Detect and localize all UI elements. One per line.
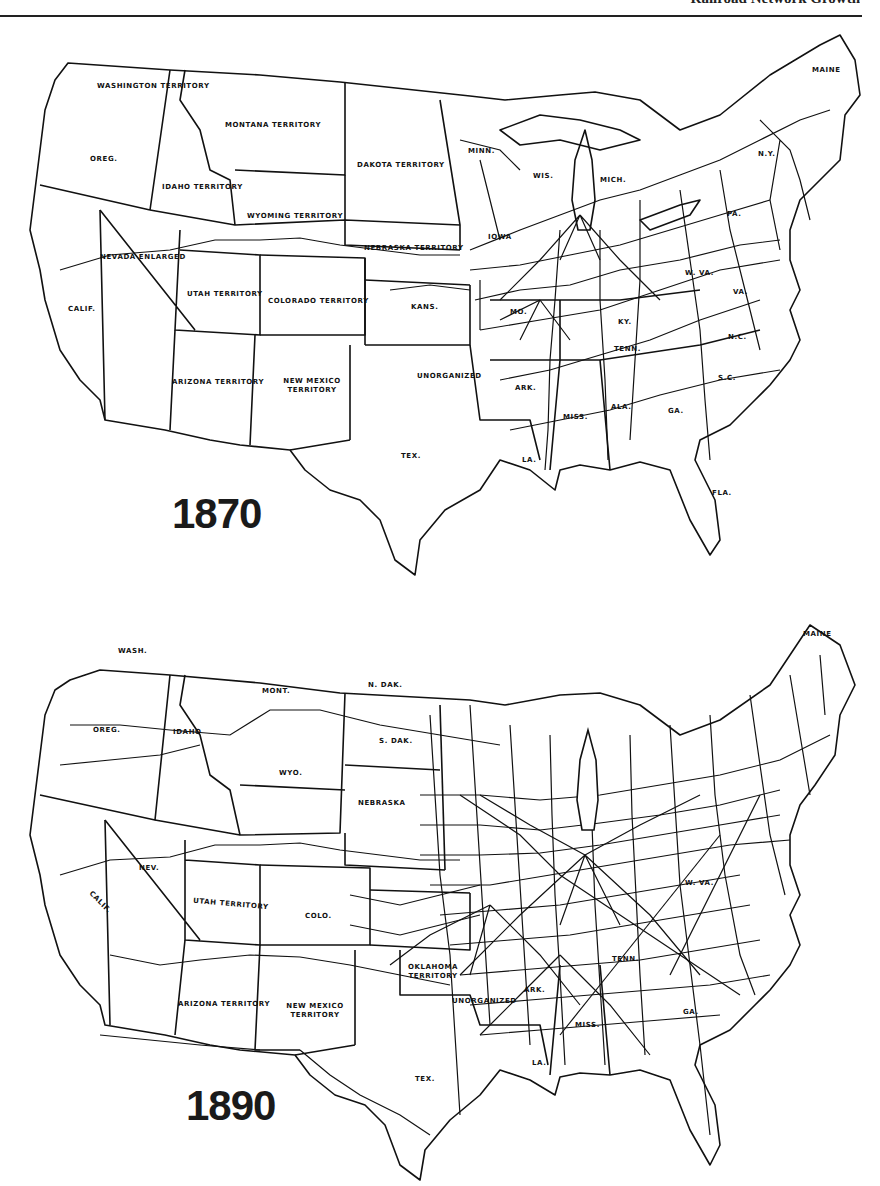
- label-florida: Fla.: [712, 489, 732, 498]
- label-nevada: Nev.: [139, 864, 159, 873]
- railroads-1870: [60, 110, 830, 470]
- label-iowa: Iowa: [488, 233, 512, 242]
- label-georgia: Ga.: [683, 1008, 699, 1017]
- label-west-virginia: W. Va.: [685, 879, 714, 888]
- label-new-mexico: New Mexico Territory: [280, 1002, 350, 1020]
- label-west-virginia: W. Va.: [685, 269, 714, 278]
- map-1870: Washington Territory Montana Territory O…: [0, 0, 880, 590]
- label-new-mexico: New Mexico Territory: [277, 377, 347, 395]
- label-california: Calif.: [68, 305, 96, 314]
- label-north-carolina: N.C.: [728, 333, 747, 342]
- label-mississippi: Miss.: [563, 413, 588, 422]
- label-south-dakota: S. Dak.: [379, 737, 413, 746]
- lake-superior: [500, 115, 640, 150]
- label-tennessee: Tenn.: [614, 345, 641, 354]
- label-arkansas: Ark.: [515, 384, 536, 393]
- year-label-1870: 1870: [172, 490, 261, 538]
- label-texas: Tex.: [415, 1075, 435, 1084]
- label-nebraska: Nebraska: [358, 799, 405, 808]
- label-pennsylvania: Pa.: [727, 210, 742, 219]
- label-maine: Maine: [803, 630, 832, 639]
- label-kentucky: Ky.: [618, 318, 632, 327]
- label-idaho: Idaho Territory: [162, 183, 243, 192]
- label-nevada: Nevada Enlarged: [100, 253, 186, 262]
- label-oregon: Oreg.: [90, 155, 118, 164]
- label-new-york: N.Y.: [758, 150, 776, 159]
- label-louisiana: La.: [522, 456, 536, 465]
- label-missouri: Mo.: [510, 308, 527, 317]
- label-nebraska: Nebraska Territory: [364, 244, 464, 253]
- label-dakota: Dakota Territory: [357, 161, 445, 170]
- lake-michigan: [577, 730, 598, 830]
- label-louisiana: La.: [532, 1059, 546, 1068]
- lake-erie: [640, 200, 700, 230]
- map-1890: Wash. Mont. N. Dak. Oreg. Idaho S. Dak. …: [0, 595, 880, 1186]
- label-south-carolina: S.C.: [718, 374, 736, 383]
- label-maine: Maine: [812, 66, 841, 75]
- label-georgia: Ga.: [668, 407, 684, 416]
- label-colorado: Colo.: [305, 912, 332, 921]
- label-montana: Montana Territory: [225, 121, 321, 130]
- label-arizona: Arizona Territory: [178, 1000, 270, 1009]
- label-utah: Utah Territory: [187, 290, 263, 299]
- label-colorado: Colorado Territory: [268, 297, 369, 306]
- us-outline: [30, 625, 855, 1180]
- label-washington: Wash.: [118, 647, 147, 656]
- label-wyoming: Wyo.: [279, 769, 302, 778]
- label-virginia: Va.: [733, 288, 748, 297]
- label-oklahoma: Oklahoma Territory: [405, 963, 461, 981]
- label-alabama: Ala.: [611, 403, 632, 412]
- label-minnesota: Minn.: [468, 147, 495, 156]
- map-1890-outline: [0, 595, 880, 1186]
- label-mississippi: Miss.: [575, 1021, 600, 1030]
- label-wisconsin: Wis.: [533, 172, 553, 181]
- label-idaho: Idaho: [173, 728, 202, 737]
- year-label-1890: 1890: [186, 1082, 275, 1130]
- label-unorganized: Unorganized: [452, 997, 517, 1006]
- label-michigan: Mich.: [600, 176, 626, 185]
- label-wyoming: Wyoming Territory: [247, 212, 343, 221]
- label-montana: Mont.: [262, 687, 290, 696]
- label-arizona: Arizona Territory: [172, 378, 264, 387]
- railroads-1890: [60, 655, 830, 1135]
- us-outline: [30, 35, 860, 575]
- label-kansas: Kans.: [411, 303, 438, 312]
- label-washington: Washington Territory: [97, 82, 210, 91]
- label-unorganized: Unorganized: [417, 372, 482, 381]
- label-north-dakota: N. Dak.: [368, 681, 402, 690]
- label-oregon: Oreg.: [93, 726, 121, 735]
- lake-michigan: [572, 130, 595, 230]
- label-texas: Tex.: [401, 452, 421, 461]
- label-tennessee: Tenn.: [612, 955, 639, 964]
- label-arkansas: Ark.: [524, 986, 545, 995]
